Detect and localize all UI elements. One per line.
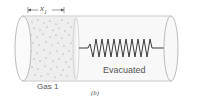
- gas-cylinder-diagram: [0, 0, 198, 102]
- panel-label: (b): [91, 89, 99, 97]
- left-end-cap: [15, 16, 31, 81]
- evacuated-label: Evacuated: [103, 65, 146, 75]
- gas-region: [24, 17, 76, 80]
- gas-label: Gas 1: [37, 82, 58, 91]
- arrowhead-left-icon: [28, 9, 31, 12]
- dimension-label: x1: [40, 3, 47, 15]
- arrowhead-right-icon: [61, 9, 64, 12]
- right-end-cap: [164, 16, 178, 81]
